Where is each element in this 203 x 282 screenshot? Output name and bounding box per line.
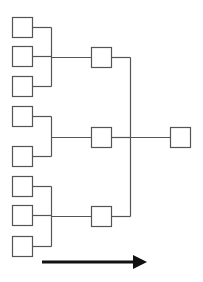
node-box-inputs [13,18,33,38]
node-box-output [171,128,191,148]
node-box-inputs [13,147,33,167]
node-box-intermediate [92,207,112,227]
node-box-inputs [13,47,33,67]
direction-arrow [42,255,147,269]
hierarchy-diagram [0,0,203,282]
node-box-inputs [13,206,33,226]
node-box-inputs [13,77,33,97]
node-box-inputs [13,177,33,197]
node-box-inputs [13,237,33,257]
node-box-intermediate [92,48,112,68]
node-box-inputs [13,107,33,127]
node-box-intermediate [92,128,112,148]
arrow-head-icon [133,255,147,269]
